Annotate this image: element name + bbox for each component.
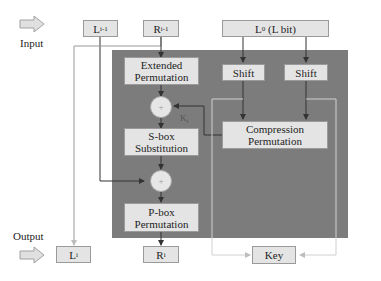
l0-box: L0 (L bit) bbox=[222, 20, 329, 37]
l-prev-box: Li-1 bbox=[83, 20, 118, 37]
r-prev-box: Ri-1 bbox=[143, 20, 179, 37]
l-prev-sub: i-1 bbox=[100, 23, 108, 35]
xor-key-icon: + bbox=[150, 96, 172, 118]
output-label: Output bbox=[13, 230, 44, 242]
xor-left-icon: + bbox=[150, 170, 172, 192]
pbox-permutation-box: P-box Permutation bbox=[124, 203, 199, 232]
l-prev-main: L bbox=[93, 23, 100, 35]
l0-suffix: (L bit) bbox=[265, 23, 296, 35]
shift-right-box: Shift bbox=[284, 64, 328, 81]
l-out-sub: i bbox=[76, 249, 78, 261]
extended-permutation-box: Extended Permutation bbox=[124, 57, 199, 85]
round-key-sub: i bbox=[187, 117, 189, 125]
key-box: Key bbox=[252, 246, 296, 264]
input-label: Input bbox=[20, 37, 43, 49]
l-out-main: L bbox=[69, 249, 76, 261]
r-out-box: Ri bbox=[143, 246, 179, 263]
round-key-label: Ki bbox=[180, 113, 188, 125]
r-prev-sub: i-1 bbox=[161, 23, 169, 35]
r-out-sub: i bbox=[164, 249, 166, 261]
compression-permutation-box: Compression Permutation bbox=[222, 121, 328, 149]
r-prev-main: R bbox=[153, 23, 160, 35]
r-out-main: R bbox=[156, 249, 163, 261]
l-out-box: Li bbox=[56, 246, 91, 263]
shift-left-box: Shift bbox=[222, 64, 265, 81]
sbox-substitution-box: S-box Substitution bbox=[124, 128, 199, 156]
l0-main: L bbox=[255, 23, 262, 35]
